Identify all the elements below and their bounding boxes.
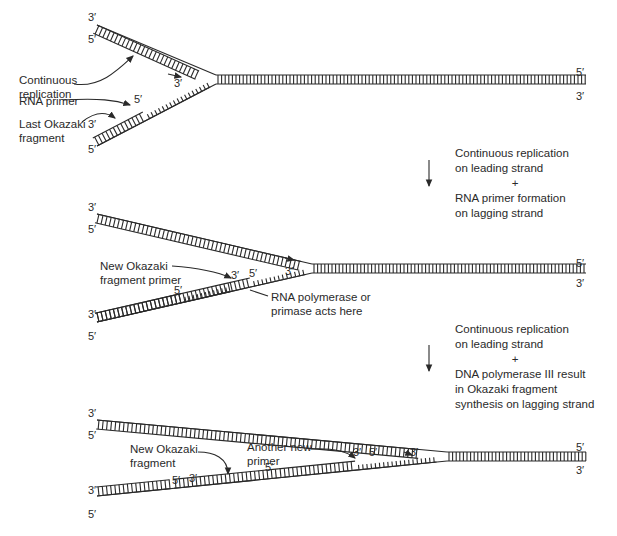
end-label: 5′ xyxy=(88,33,96,45)
another-primer-arrow xyxy=(311,449,355,458)
label-another-new-primer: Another new primer xyxy=(247,440,312,468)
last-okazaki-arrow xyxy=(82,114,115,122)
step1-line1: Continuous replication xyxy=(455,147,569,159)
step2-plus: + xyxy=(455,352,575,367)
end-label: 3′ xyxy=(189,472,197,484)
primase-pointer-line xyxy=(250,290,268,296)
step1-line3: RNA primer formation xyxy=(455,192,566,204)
step2-line1: Continuous replication xyxy=(455,323,569,335)
end-label: 5′ xyxy=(249,267,257,279)
label-new-okazaki-fragment: New Okazaki fragment xyxy=(130,442,198,470)
step1-line4: on lagging strand xyxy=(455,207,543,219)
end-label: 5′ xyxy=(576,441,584,453)
end-label: 5′ xyxy=(134,93,142,105)
step1-plus: + xyxy=(455,176,575,191)
label-last-okazaki-fragment: Last Okazaki fragment xyxy=(19,117,85,145)
end-label: 3′ xyxy=(88,308,96,320)
end-label: 5′ xyxy=(88,508,96,520)
end-label: 3′ xyxy=(410,446,418,458)
step2-line2: on leading strand xyxy=(455,338,543,350)
end-label: 5′ xyxy=(88,330,96,342)
end-label: 3′ xyxy=(88,484,96,496)
step2-line5: synthesis on lagging strand xyxy=(455,398,594,410)
end-label: 3′ xyxy=(576,464,584,476)
end-label: 5′ xyxy=(265,461,273,473)
end-label: 5′ xyxy=(576,66,584,78)
end-label: 5′ xyxy=(88,223,96,235)
end-label: 3′ xyxy=(285,265,293,277)
end-label: 3′ xyxy=(88,11,96,23)
end-label: 5′ xyxy=(172,474,180,486)
step2-description: Continuous replication on leading strand… xyxy=(455,322,594,412)
new-okazaki-fragment-arrow xyxy=(198,452,228,474)
step2-line4: in Okazaki fragment xyxy=(455,383,557,395)
end-label: 5′ xyxy=(88,429,96,441)
label-new-okazaki-fragment-primer: New Okazaki fragment primer xyxy=(100,259,181,287)
continuous-replication-arrow xyxy=(74,56,133,85)
step1-line2: on leading strand xyxy=(455,162,543,174)
end-label: 5′ xyxy=(369,446,377,458)
end-label: 5′ xyxy=(174,284,182,296)
step1-description: Continuous replication on leading strand… xyxy=(455,146,575,221)
label-rna-primer: RNA primer xyxy=(19,94,78,108)
end-label: 5′ xyxy=(576,257,584,269)
end-label: 5′ xyxy=(88,143,96,155)
step2-line3: DNA polymerase III result xyxy=(455,368,585,380)
end-label: 3′ xyxy=(174,77,182,89)
end-label: 3′ xyxy=(88,118,96,130)
end-label: 3′ xyxy=(88,407,96,419)
label-rna-polymerase-primase: RNA polymerase or primase acts here xyxy=(271,290,371,318)
end-label: 3′ xyxy=(576,90,584,102)
end-label: 3′ xyxy=(231,269,239,281)
end-label: 3′ xyxy=(88,201,96,213)
end-label: 3′ xyxy=(576,277,584,289)
end-label: 3′ xyxy=(353,446,361,458)
